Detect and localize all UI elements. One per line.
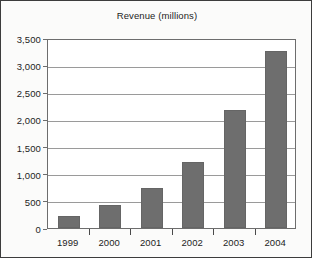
y-axis-tick-label: 1,500 xyxy=(17,142,41,153)
bar xyxy=(224,110,246,228)
x-axis-category-label: 2002 xyxy=(172,237,214,248)
x-axis-tick-mark xyxy=(213,229,214,235)
bar xyxy=(141,188,163,228)
bar xyxy=(182,162,204,228)
x-axis-category-label: 2004 xyxy=(255,237,297,248)
y-axis-tick-label: 3,000 xyxy=(17,61,41,72)
x-axis-tick-mark xyxy=(255,229,256,235)
bar xyxy=(265,51,287,229)
y-axis-tick-label: 0 xyxy=(36,224,41,235)
y-axis-tick-label: 2,000 xyxy=(17,115,41,126)
chart-title: Revenue (millions) xyxy=(1,10,312,21)
chart-figure: Revenue (millions) 05001,0001,5002,0002,… xyxy=(0,0,312,258)
gridline xyxy=(48,67,295,68)
x-axis-tick-mark xyxy=(130,229,131,235)
x-axis-category-label: 2003 xyxy=(213,237,255,248)
plot-area xyxy=(47,39,296,229)
x-axis-category-label: 2001 xyxy=(130,237,172,248)
bar xyxy=(99,205,121,228)
y-axis-tick-label: 1,000 xyxy=(17,169,41,180)
gridline xyxy=(48,175,295,176)
x-axis-tick-mark xyxy=(172,229,173,235)
gridline xyxy=(48,121,295,122)
gridline xyxy=(48,202,295,203)
y-axis-tick-label: 500 xyxy=(25,196,41,207)
x-axis-tick-mark xyxy=(89,229,90,235)
bar xyxy=(58,216,80,228)
x-axis-category-label: 1999 xyxy=(47,237,89,248)
gridline xyxy=(48,94,295,95)
y-axis-tick-label: 2,500 xyxy=(17,88,41,99)
y-axis-tick-label: 3,500 xyxy=(17,34,41,45)
x-axis-category-label: 2000 xyxy=(89,237,131,248)
gridline xyxy=(48,148,295,149)
